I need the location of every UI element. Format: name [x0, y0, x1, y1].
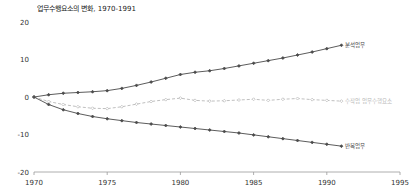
data-series-group	[33, 44, 343, 148]
series-labels-group: 분석업무수작업 업무수행요소반복업무	[345, 41, 392, 150]
svg-text:1970: 1970	[25, 179, 43, 187]
x-axis-tick-labels: 197019751980198519901995	[25, 172, 409, 187]
svg-text:1985: 1985	[245, 179, 263, 187]
svg-text:1995: 1995	[391, 179, 409, 187]
svg-text:1980: 1980	[171, 179, 189, 187]
svg-text:10: 10	[20, 56, 29, 64]
chart-container: 업무수행요소의 변화, 1970-1991 20100-10-20 197019…	[0, 0, 419, 191]
chart-plot-area: 20100-10-20 197019751980198519901995 분석업…	[0, 0, 419, 191]
svg-text:20: 20	[20, 19, 29, 27]
y-axis-tick-labels: 20100-10-20	[18, 19, 29, 177]
series-label: 반복업무	[345, 142, 365, 150]
svg-text:-10: -10	[18, 131, 29, 139]
svg-text:-20: -20	[18, 169, 29, 177]
series-label: 분석업무	[345, 41, 365, 49]
series-label: 수작업 업무수행요소	[345, 97, 392, 105]
svg-text:1975: 1975	[98, 179, 116, 187]
svg-text:0: 0	[25, 94, 29, 102]
svg-text:1990: 1990	[318, 179, 336, 187]
